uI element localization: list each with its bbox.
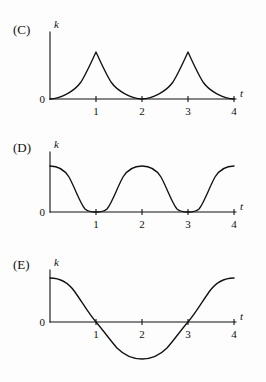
- origin-label-e: 0: [40, 316, 46, 328]
- x-tick-label-1-d: 1: [93, 218, 99, 230]
- x-tick-label-2-d: 2: [139, 218, 145, 230]
- x-tick-label-1-c: 1: [93, 105, 99, 117]
- x-tick-label-3-c: 3: [185, 105, 191, 117]
- y-axis-label-c: k: [54, 18, 60, 30]
- curve-d: [50, 166, 234, 212]
- curve-c: [50, 52, 234, 99]
- x-tick-label-1-e: 1: [93, 328, 99, 340]
- plot-c: k t 0 1 2 3 4: [0, 0, 266, 125]
- graph-panel-c: (C) k t 0 1 2 3 4: [0, 0, 266, 125]
- x-axis-label-c: t: [240, 87, 244, 99]
- curve-e: [50, 278, 234, 359]
- x-tick-label-4-d: 4: [231, 218, 237, 230]
- x-axis-label-e: t: [240, 310, 244, 322]
- origin-label-d: 0: [40, 206, 46, 218]
- graph-panel-e: (E) k t 0 1 2 3 4: [0, 240, 266, 382]
- x-tick-label-3-e: 3: [185, 328, 191, 340]
- plot-e: k t 0 1 2 3 4: [0, 240, 266, 382]
- x-axis-label-d: t: [240, 200, 244, 212]
- plot-d: k t 0 1 2 3 4: [0, 120, 266, 245]
- x-tick-label-3-d: 3: [185, 218, 191, 230]
- origin-label-c: 0: [40, 93, 46, 105]
- y-axis-label-e: k: [54, 256, 60, 268]
- x-tick-label-2-e: 2: [139, 328, 145, 340]
- x-tick-label-2-c: 2: [139, 105, 145, 117]
- graph-panel-d: (D) k t 0 1 2 3 4: [0, 120, 266, 245]
- x-tick-label-4-c: 4: [231, 105, 237, 117]
- x-tick-label-4-e: 4: [231, 328, 237, 340]
- y-axis-label-d: k: [54, 138, 60, 150]
